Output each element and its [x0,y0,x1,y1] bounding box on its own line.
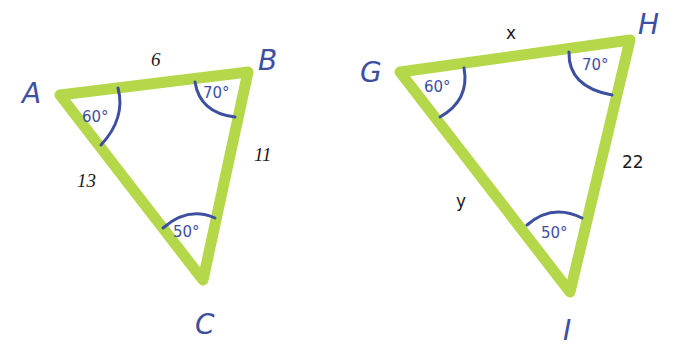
side-label-gh: x [506,23,516,43]
vertex-label-i: I [563,314,571,347]
side-label-ab: 6 [151,49,161,70]
triangle-abc: 60° 70° 50° A B C 6 11 13 [20,44,277,341]
angle-label-g: 60° [424,78,451,96]
side-label-ac: 13 [77,170,96,191]
angle-label-a: 60° [82,108,109,126]
side-label-hi: 22 [622,152,644,172]
vertex-label-h: H [638,8,659,41]
side-label-gi: y [456,191,466,211]
angle-label-c: 50° [173,223,200,241]
angle-label-b: 70° [203,84,230,102]
angle-label-h: 70° [582,56,609,74]
side-label-bc: 11 [254,144,272,165]
vertex-label-c: C [195,308,215,341]
vertex-label-a: A [20,77,41,110]
triangle-ghi: 60° 70° 50° G H I x 22 y [360,8,659,347]
vertex-label-b: B [258,44,277,77]
vertex-label-g: G [360,56,382,89]
similar-triangles-diagram: 60° 70° 50° A B C 6 11 13 60° 70° 50° G … [0,0,681,358]
angle-label-i: 50° [541,224,568,242]
